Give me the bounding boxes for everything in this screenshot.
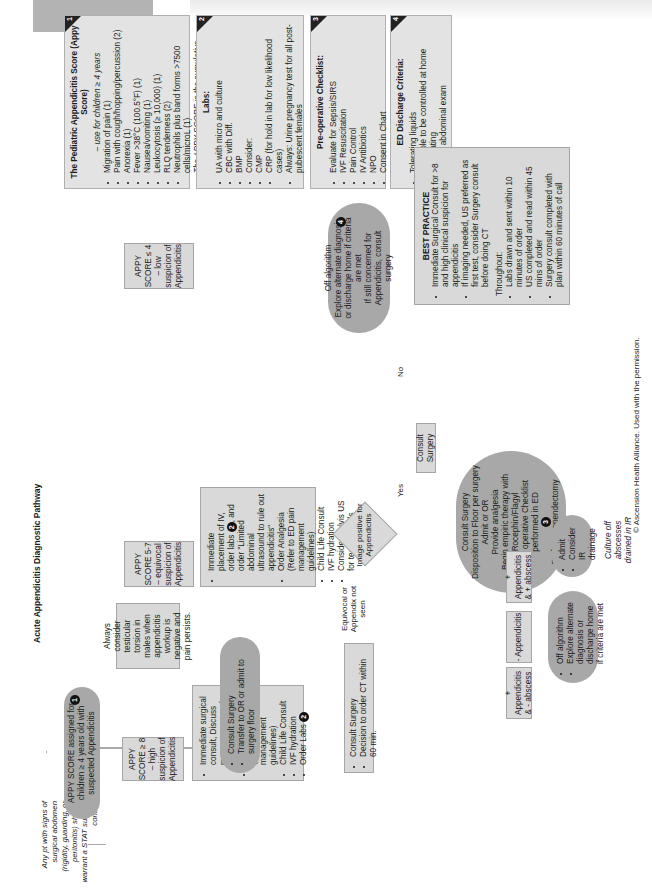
testicular-torsion-note: Always consider testicular torsion in ma…: [116, 603, 180, 669]
high-suspicion-outcome: Consult Surgery Transfer to OR or admit …: [220, 637, 260, 773]
info-title: The Pediatric Appendicitis Score (Appy S…: [70, 22, 90, 182]
no-label: No: [396, 367, 405, 377]
consult-ct-decision: Consult Surgery Decision to order CT wit…: [344, 643, 374, 773]
ct-result-positive-abscess: + Appendicitis & + abscess: [506, 551, 532, 603]
info-title: ED Discharge Criteria:: [396, 22, 406, 182]
ct-result-positive-no-abscess: + Appendicitis & - abscess: [506, 667, 532, 719]
info-badge-4: 4: [391, 16, 407, 32]
pathway-title: Acute Appendicitis Diagnostic Pathway: [32, 283, 42, 643]
info-box-preop-checklist: 3 Pre-operative Checklist: Evaluate for …: [310, 15, 386, 189]
abscess-outcome: Admit Consider IR drainage: [552, 515, 592, 577]
ref-badge-2: 2: [227, 522, 237, 532]
yes-label: Yes: [396, 484, 405, 497]
info-badge-1: 1: [65, 16, 81, 32]
branch-high-suspicion: APPY SCORE ≥ 8 – high suspicion of Appen…: [122, 737, 184, 781]
info-badge-2: 2: [197, 16, 213, 32]
ct-negative-outcome: Off algorithm Explore alternate diagnosi…: [548, 591, 598, 683]
info-box-appy-score: 1 The Pediatric Appendicitis Score (Appy…: [64, 15, 190, 189]
info-title: Labs:: [202, 22, 212, 182]
consult-surgery-box: Consult Surgery: [416, 423, 436, 473]
flowchart-canvas: Acute Appendicitis Diagnostic Pathway 1 …: [0, 0, 652, 893]
info-subtitle: – use for children ≥ 4 years: [93, 22, 103, 182]
equivocal-suspicion-actions: Immediate placement of IV, order labs 2,…: [200, 487, 316, 587]
branch-low-suspicion: APPY SCORE ≤ 4 – low suspicion of Append…: [124, 243, 194, 289]
ref-badge-1: 1: [70, 695, 80, 705]
branch-equivocal-suspicion: APPY SCORE 5-7 – equivocal suspicion of …: [124, 541, 194, 587]
abscess-culture-note: Culture off abscesses drained in IR: [604, 507, 634, 573]
info-list: Evaluate for Sepsis/SIRS IVF Resuscitati…: [329, 22, 389, 182]
note-connector: [88, 844, 106, 845]
info-title: Pre-operative Checklist:: [316, 22, 326, 182]
copyright-notice: © Ascension Health Alliance. Used with t…: [632, 213, 642, 533]
equivocal-label: Equivocal or Appendix not seen: [340, 579, 367, 639]
ref-badge-3: 3: [541, 517, 551, 527]
info-list: UA with micro and culture CBC with Diff.…: [215, 22, 305, 182]
ref-badge-4: 4: [336, 217, 346, 227]
info-badge-3: 3: [311, 16, 327, 32]
low-suspicion-outcome: Off algorithm Explore alternate diagnosi…: [328, 203, 390, 333]
info-box-labs: 2 Labs: UA with micro and culture CBC wi…: [196, 15, 304, 189]
best-practice-box: BEST PRACTICE Immediate Surgical Consult…: [414, 147, 570, 305]
decision-image-positive: Image positive for Appendicitis: [328, 499, 400, 571]
ref-badge-2: 2: [299, 712, 309, 722]
start-node-appy-score: APPY SCORE assigned for children ≥ 4 yea…: [64, 687, 100, 819]
ct-result-negative: - Appendicitis: [506, 611, 532, 663]
